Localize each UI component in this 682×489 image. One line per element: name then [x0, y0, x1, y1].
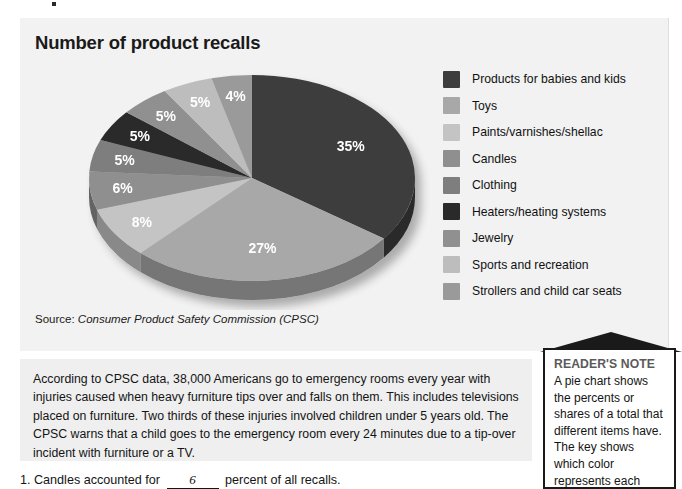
legend-item-strollers-and-child-car-seats[interactable]: Strollers and child car seats [443, 278, 668, 305]
pie-slice-label: 5% [115, 152, 136, 168]
pie-slice-label: 27% [248, 240, 277, 256]
readers-note: READER'S NOTE A pie chart shows the perc… [540, 332, 682, 489]
legend-item-label: Paints/varnishes/shellac [472, 125, 603, 139]
chart-panel: Number of product recalls [20, 18, 668, 351]
legend-swatch-icon [443, 230, 460, 247]
readers-note-title: READER'S NOTE [554, 357, 674, 371]
legend-swatch-icon [443, 283, 460, 300]
question-text-before: Candles accounted for [34, 473, 160, 487]
legend-item-jewelry[interactable]: Jewelry [443, 225, 668, 252]
legend-item-label: Heaters/heating systems [472, 205, 606, 219]
chart-source-prefix: Source: [35, 313, 78, 325]
legend-item-clothing[interactable]: Clothing [443, 172, 668, 199]
pie-slice-label: 5% [130, 128, 151, 144]
question-text-after: percent of all recalls. [225, 473, 341, 487]
readers-note-box: READER'S NOTE A pie chart shows the perc… [543, 348, 676, 489]
chart-legend: Products for babies and kids Toys Paints… [443, 66, 668, 305]
panel-edge-rule [668, 18, 669, 351]
legend-item-label: Strollers and child car seats [472, 284, 622, 298]
pie-slice-label: 5% [156, 108, 177, 124]
legend-swatch-icon [443, 177, 460, 194]
pie-slice-label: 4% [226, 88, 247, 104]
pie-slice-label: 5% [190, 94, 211, 110]
legend-swatch-icon [443, 124, 460, 141]
legend-item-label: Toys [472, 99, 497, 113]
pie-slice-label: 8% [132, 214, 153, 230]
legend-swatch-icon [443, 97, 460, 114]
legend-item-paints-varnishes-shellac[interactable]: Paints/varnishes/shellac [443, 119, 668, 146]
readers-note-text: A pie chart shows the percents or shares… [545, 373, 674, 489]
page-root: Number of product recalls [0, 0, 682, 489]
legend-item-label: Clothing [472, 178, 517, 192]
chart-source: Source: Consumer Product Safety Commissi… [35, 313, 319, 325]
legend-item-products-for-babies-and-kids[interactable]: Products for babies and kids [443, 66, 668, 93]
question-answer-blank[interactable]: 6 [167, 472, 219, 489]
legend-swatch-icon [443, 150, 460, 167]
legend-item-candles[interactable]: Candles [443, 146, 668, 173]
legend-item-toys[interactable]: Toys [443, 93, 668, 120]
legend-swatch-icon [443, 71, 460, 88]
legend-swatch-icon [443, 203, 460, 220]
pie-chart-svg: 35%27%8%6%5%5%5%5%4% [57, 60, 447, 310]
body-paragraph-box: According to CPSC data, 38,000 Americans… [20, 359, 532, 461]
legend-item-label: Sports and recreation [472, 258, 589, 272]
pie-slice-label: 6% [112, 180, 133, 196]
question-number: 1. [20, 473, 31, 487]
scan-artifact-speck [52, 2, 56, 6]
pie-chart: 35%27%8%6%5%5%5%5%4% [57, 60, 447, 310]
question-1: 1. Candles accounted for 6 percent of al… [20, 472, 532, 489]
legend-item-label: Products for babies and kids [472, 72, 626, 86]
body-paragraph-text: According to CPSC data, 38,000 Americans… [20, 359, 532, 462]
legend-item-label: Jewelry [472, 231, 513, 245]
legend-swatch-icon [443, 256, 460, 273]
chart-source-name: Consumer Product Safety Commission (CPSC… [78, 313, 319, 325]
legend-item-heaters-heating-systems[interactable]: Heaters/heating systems [443, 199, 668, 226]
chart-title: Number of product recalls [35, 32, 260, 54]
legend-item-label: Candles [472, 152, 517, 166]
legend-item-sports-and-recreation[interactable]: Sports and recreation [443, 252, 668, 279]
pie-slice-label: 35% [337, 138, 366, 154]
